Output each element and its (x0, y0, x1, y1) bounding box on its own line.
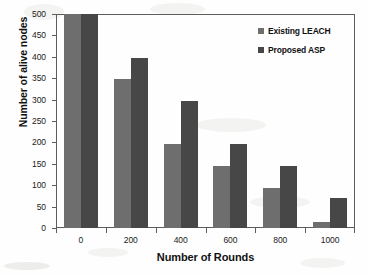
x-axis-tick-mark (156, 228, 157, 233)
x-axis-tick-mark (106, 228, 107, 233)
bar (213, 166, 230, 228)
x-axis-tick-mark (56, 228, 57, 233)
y-axis-tick-label: 400 (32, 52, 46, 62)
x-axis-title: Number of Rounds (56, 251, 355, 263)
y-axis-tick-label: 500 (32, 9, 46, 19)
bar (131, 58, 148, 228)
bar (164, 144, 181, 228)
x-axis-tick-label: 600 (210, 235, 250, 245)
bar (114, 79, 131, 228)
y-axis-tick-label: 150 (32, 159, 46, 169)
legend-swatch-icon (258, 28, 264, 34)
x-axis-tick-label: 1000 (310, 235, 350, 245)
x-axis-tick-mark (354, 228, 355, 233)
x-axis-tick-mark (305, 228, 306, 233)
legend-label: Proposed ASP (268, 45, 325, 55)
x-axis-tick-mark (206, 228, 207, 233)
legend-item: Existing LEACH (258, 26, 331, 36)
y-axis-tick-label: 100 (32, 180, 46, 190)
y-axis-tick-label: 200 (32, 137, 46, 147)
bar (313, 222, 330, 228)
x-axis-tick-label: 800 (260, 235, 300, 245)
figure: Number of alive nodes 050100150200250300… (0, 0, 367, 275)
bar (330, 198, 347, 228)
x-axis-tick-label: 0 (61, 235, 101, 245)
y-axis-tick-label: 350 (32, 73, 46, 83)
y-axis-tick-label: 300 (32, 95, 46, 105)
y-axis-tick-label: 450 (32, 30, 46, 40)
bar (64, 14, 81, 228)
bar (230, 144, 247, 228)
legend-label: Existing LEACH (268, 26, 331, 36)
legend-item: Proposed ASP (258, 45, 331, 55)
x-axis-tick-mark (255, 228, 256, 233)
scan-artifact (4, 262, 50, 270)
chart-legend: Existing LEACH Proposed ASP (258, 26, 331, 64)
x-axis-tick-label: 400 (161, 235, 201, 245)
bar (280, 166, 297, 228)
y-axis-tick-label: 0 (41, 223, 46, 233)
legend-swatch-icon (258, 47, 264, 53)
y-axis: 050100150200250300350400450500 (0, 0, 56, 243)
y-axis-tick-label: 250 (32, 116, 46, 126)
bar (263, 188, 280, 228)
bar (181, 101, 198, 228)
y-axis-tick-label: 50 (37, 202, 46, 212)
x-axis-tick-label: 200 (111, 235, 151, 245)
bar (81, 14, 98, 228)
